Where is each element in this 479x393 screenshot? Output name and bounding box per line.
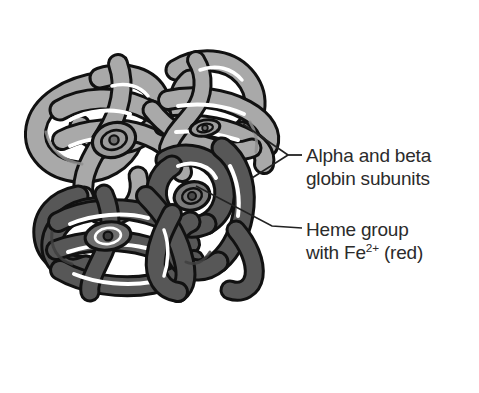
label-subunits-line1: Alpha and beta <box>306 144 431 167</box>
label-alpha-beta-globin-subunits: Alpha and beta globin subunits <box>306 144 431 190</box>
label-heme-line2: with Fe2+ (red) <box>306 241 423 264</box>
label-heme-line1: Heme group <box>306 218 423 241</box>
label-subunits-line2: globin subunits <box>306 167 431 190</box>
label-heme-charge: 2+ <box>366 241 379 254</box>
label-heme-prefix: with Fe <box>306 242 366 263</box>
globin-subunit-dark-lower-right <box>146 148 254 292</box>
figure-container: .tubeOutLight { fill:none; stroke:#11111… <box>0 0 479 393</box>
label-heme-suffix: (red) <box>379 242 423 263</box>
hemoglobin-diagram: .tubeOutLight { fill:none; stroke:#11111… <box>0 0 479 393</box>
label-heme-group: Heme group with Fe2+ (red) <box>306 218 423 264</box>
